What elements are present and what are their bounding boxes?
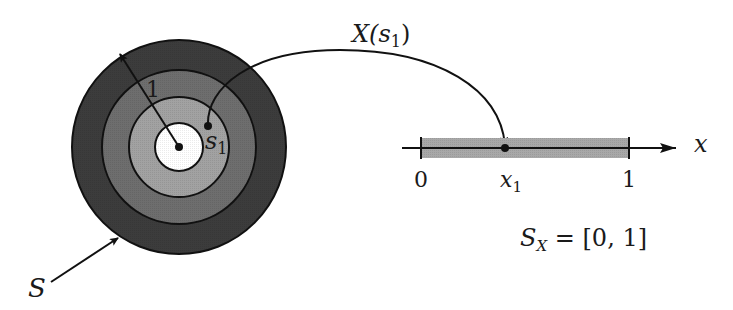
sample-space-pointer-arrow [51, 238, 118, 282]
image-point-dot [501, 144, 509, 152]
image-point-label: x1 [500, 167, 522, 196]
mapping-label: X(s1) [350, 20, 410, 51]
sample-space-label: S [28, 273, 46, 303]
axis-label-x: x [694, 130, 708, 158]
range-label: SX = [0, 1] [520, 224, 647, 255]
random-variable-diagram: 1 s1 X(s1) x 0 1 x1 SX = [0, 1] S [0, 0, 733, 310]
radius-label: 1 [146, 77, 160, 102]
real-line [402, 137, 676, 159]
tick-label-one: 1 [622, 167, 636, 192]
tick-label-zero: 0 [414, 167, 428, 192]
